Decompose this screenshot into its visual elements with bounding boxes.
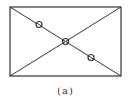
figure-caption: (a) xyxy=(0,84,131,98)
